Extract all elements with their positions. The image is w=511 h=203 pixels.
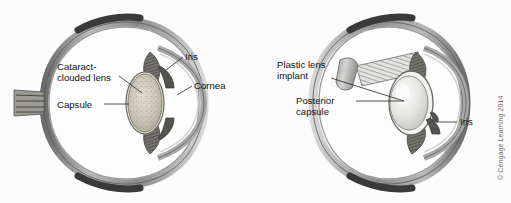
label-capsule: Capsule (57, 99, 92, 110)
implant-highlight (396, 83, 410, 105)
label-plastic-lens-implant-line1: Plastic lens (277, 59, 326, 70)
label-posterior-capsule-line2: capsule (296, 106, 329, 117)
label-iris: Iris (185, 51, 198, 62)
label-cataract-clouded-lens-line2: clouded lens (57, 72, 111, 83)
copyright-notice: © Cengage Learning 2014 (496, 96, 505, 180)
label-posterior-capsule-line1: Posterior (296, 95, 335, 106)
label-cornea: Cornea (194, 80, 226, 91)
eye-diagram-canvas: Cataract- clouded lens Capsule Iris Corn… (0, 0, 511, 203)
plastic-lens-implant (390, 76, 428, 130)
label-iris: Iris (460, 116, 473, 127)
eye-diagram-figure: Cataract- clouded lens Capsule Iris Corn… (0, 0, 511, 203)
label-cataract-clouded-lens-line1: Cataract- (57, 61, 96, 72)
label-plastic-lens-implant-line2: implant (277, 70, 308, 81)
